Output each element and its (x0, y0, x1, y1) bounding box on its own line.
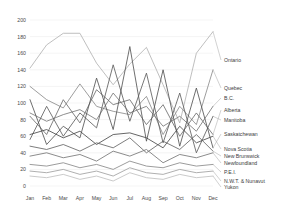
x-axis-tick-label: Nov (192, 195, 202, 201)
legend-item-label[interactable]: B.C. (224, 95, 234, 101)
y-axis-tick-label: 100 (17, 100, 26, 106)
line-chart: 020406080100120140160180200 JanFebMarApr… (0, 0, 290, 214)
legend-item-label[interactable]: Saskatchewan (224, 131, 258, 137)
data-series-line (30, 65, 213, 153)
legend-item-label[interactable]: New Brunswick (224, 153, 260, 159)
legend-item-label[interactable]: Newfoundland (224, 160, 257, 166)
y-axis-tick-label: 80 (20, 117, 26, 123)
legend-item-label[interactable]: Alberta (224, 107, 241, 113)
x-axis-tick-label: Dec (208, 195, 218, 201)
x-axis-tick-label: Mar (59, 195, 68, 201)
y-axis-tick-label: 140 (17, 67, 26, 73)
x-axis-tick-label: Oct (176, 195, 185, 201)
y-axis-tick-label: 0 (23, 183, 26, 189)
y-axis-tick-label: 160 (17, 50, 26, 56)
legend-leader-line (213, 98, 221, 106)
legend-leader-line (213, 136, 221, 149)
y-axis-tick-label: 40 (20, 150, 26, 156)
data-series-line (30, 149, 213, 162)
data-series-line (30, 173, 213, 181)
y-axis-tick-label: 180 (17, 34, 26, 40)
y-axis-tick-label: 20 (20, 166, 26, 172)
data-series-line (30, 32, 213, 123)
legend-item-label[interactable]: Nova Scotia (224, 146, 252, 152)
y-axis-tick-label: 200 (17, 17, 26, 23)
legend-item-label[interactable]: Quebec (224, 85, 243, 91)
x-axis-tick-label: Apr (76, 195, 84, 201)
legend-leader-line (213, 153, 221, 163)
legend-leader-line (213, 116, 221, 120)
legend-leader-line (213, 171, 221, 181)
y-axis-tick-label: 120 (17, 83, 26, 89)
legend-leader-line (213, 151, 221, 156)
x-axis-tick-label: Jan (26, 195, 34, 201)
legend-item-label[interactable]: P.E.I. (224, 169, 236, 175)
legend-labels: OntarioQuebecB.C.AlbertaManitobaSaskatch… (224, 57, 265, 190)
data-series-line (30, 168, 213, 176)
legend-leader-line (213, 70, 221, 88)
x-axis-tick-label: Sep (158, 195, 167, 201)
legend-leader-line (213, 32, 221, 60)
legend-leader-line (213, 164, 221, 172)
chart-canvas: 020406080100120140160180200 JanFebMarApr… (0, 0, 290, 214)
y-axis-tick-label: 60 (20, 133, 26, 139)
legend-leader-line (213, 176, 221, 187)
legend-leader-line (213, 110, 221, 135)
x-axis-tick-labels: JanFebMarAprMayJunJulAugSepOctNovDec (26, 195, 218, 201)
legend-leader-line (213, 134, 221, 148)
x-axis-tick-label: May (92, 195, 102, 201)
legend-item-label[interactable]: Manitoba (224, 117, 245, 123)
x-axis-tick-label: Jun (109, 195, 117, 201)
legend-item-label[interactable]: Ontario (224, 57, 241, 63)
data-series-line (30, 161, 213, 169)
data-series-line (30, 135, 213, 153)
y-axis-tick-labels: 020406080100120140160180200 (17, 17, 26, 189)
legend-leader-lines (213, 32, 221, 187)
x-axis-tick-label: Aug (142, 195, 151, 201)
x-axis-tick-label: Jul (126, 195, 133, 201)
legend-item-label[interactable]: Yukon (224, 184, 239, 190)
x-axis-tick-label: Feb (42, 195, 51, 201)
data-series-group (30, 32, 213, 181)
